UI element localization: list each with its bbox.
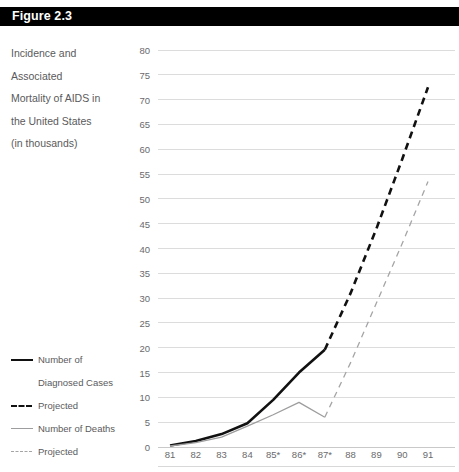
x-axis-tick-label: 90: [397, 449, 408, 460]
legend-line-solid-black-icon: [11, 359, 33, 361]
y-axis-tick-label: 15: [139, 367, 150, 378]
x-axis-tick-label: 91: [423, 449, 434, 460]
legend-item-label: Projected: [38, 394, 78, 417]
y-axis-tick-label: 0: [145, 442, 150, 453]
caption-line: Incidence and: [11, 42, 139, 65]
legend-line-dashed-black-icon: [11, 405, 32, 407]
x-axis-tick-label: 88: [345, 449, 356, 460]
chart-line-projected: [325, 182, 428, 418]
chart-plot-area: [158, 50, 455, 447]
x-axis-labels: 8182838485*86*87*88899091: [158, 449, 455, 465]
y-axis-tick-label: 50: [139, 193, 150, 204]
x-axis-tick-label: 85*: [266, 449, 280, 460]
chart-line-number-of-diagnosed-cases: [170, 350, 325, 446]
y-axis-tick-label: 10: [139, 392, 150, 403]
y-axis-tick-label: 25: [139, 317, 150, 328]
y-axis-tick-label: 70: [139, 94, 150, 105]
y-axis-tick-label: 65: [139, 119, 150, 130]
chart-line-projected: [325, 87, 428, 350]
x-axis-tick-label: 82: [191, 449, 202, 460]
y-axis-tick-label: 35: [139, 268, 150, 279]
legend-item-label: Projected: [38, 440, 78, 463]
chart-series-layer: [158, 50, 455, 447]
figure-caption: Incidence and Associated Mortality of AI…: [11, 42, 139, 155]
legend-item-label: Number of: [38, 348, 82, 371]
y-axis-tick-label: 55: [139, 169, 150, 180]
caption-line: Mortality of AIDS in: [11, 87, 139, 110]
bottom-rule: [158, 466, 455, 467]
x-axis-tick-label: 89: [371, 449, 382, 460]
caption-line: Associated: [11, 65, 139, 88]
x-axis-tick-label: 83: [216, 449, 227, 460]
y-axis-tick-label: 45: [139, 218, 150, 229]
figure-label: Figure 2.3: [12, 8, 72, 25]
x-axis-tick-label: 81: [165, 449, 176, 460]
legend-item-sublabel: Diagnosed Cases: [38, 371, 113, 394]
y-axis-tick-label: 40: [139, 243, 150, 254]
y-axis-tick-label: 20: [139, 342, 150, 353]
x-axis-tick-label: 84: [242, 449, 253, 460]
y-axis-tick-label: 80: [139, 45, 150, 56]
legend-line-dashed-gray-icon: [11, 451, 32, 452]
y-axis-tick-label: 60: [139, 144, 150, 155]
x-axis-tick-label: 86*: [292, 449, 306, 460]
y-axis-tick-label: 30: [139, 293, 150, 304]
legend-line-solid-gray-icon: [11, 428, 33, 429]
caption-line: the United States: [11, 110, 139, 133]
caption-line: (in thousands): [11, 132, 139, 155]
y-axis-tick-label: 75: [139, 69, 150, 80]
y-axis-labels: 05101520253035404550556065707580: [128, 50, 154, 447]
y-axis-tick-label: 5: [145, 417, 150, 428]
legend-item-label: Number of Deaths: [38, 417, 115, 440]
x-axis-tick-label: 87*: [318, 449, 332, 460]
